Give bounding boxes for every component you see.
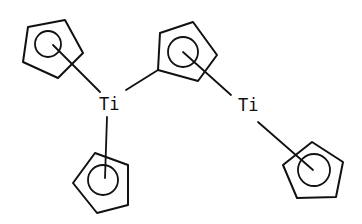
chemical-structure [0, 0, 362, 224]
atom-ti-left: Ti [98, 96, 120, 113]
bond-cp-top-left-ti-left [53, 45, 100, 92]
cp-ring-top-left [23, 20, 83, 78]
bond-ti-left-cp-bottom-left [105, 117, 107, 178]
cp-ring-center [158, 22, 217, 81]
cp-ring-bottom-left [73, 153, 128, 213]
bond-cp-center-ti-right [183, 52, 231, 95]
bond-ti-left-cp-center [126, 70, 158, 90]
atom-ti-right: Ti [237, 97, 259, 114]
